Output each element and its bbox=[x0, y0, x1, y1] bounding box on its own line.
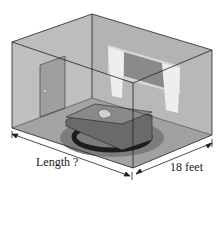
length-label: Length ? bbox=[36, 155, 78, 170]
width-label: 18 feet bbox=[170, 160, 203, 175]
door-knob bbox=[44, 90, 47, 93]
door bbox=[40, 56, 65, 117]
